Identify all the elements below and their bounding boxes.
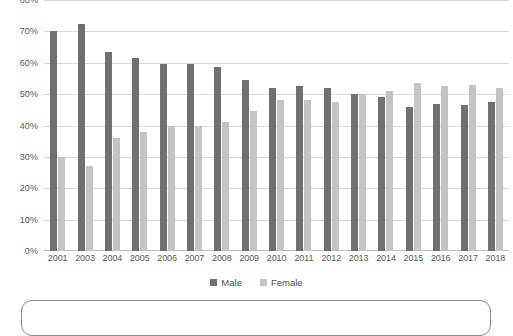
bar-male-2009 — [242, 80, 249, 251]
bar-female-2007 — [195, 126, 202, 252]
bar-group — [181, 0, 208, 251]
bar-group — [482, 0, 509, 251]
bar-male-2004 — [105, 52, 112, 251]
bar-group — [400, 0, 427, 251]
x-axis: 2001200320042005200620072008200920102011… — [44, 253, 509, 268]
legend-label: Female — [271, 277, 303, 288]
bar-group — [345, 0, 372, 251]
bar-female-2013 — [359, 94, 366, 251]
bar-female-2008 — [222, 122, 229, 251]
bar-group — [236, 0, 263, 251]
x-axis-tick-label: 2008 — [208, 253, 235, 268]
x-axis-tick-label: 2014 — [372, 253, 399, 268]
legend-label: Male — [221, 277, 242, 288]
bar-female-2011 — [304, 100, 311, 251]
y-axis-tick-label: 40% — [20, 121, 38, 131]
y-axis-tick-label: 60% — [20, 58, 38, 68]
bar-male-2012 — [324, 88, 331, 251]
chart-legend: MaleFemale — [0, 274, 513, 290]
bar-female-2010 — [277, 100, 284, 251]
bar-male-2014 — [378, 97, 385, 251]
bar-group — [290, 0, 317, 251]
bar-male-2007 — [187, 64, 194, 251]
x-axis-tick-label: 2017 — [454, 253, 481, 268]
x-axis-tick-label: 2001 — [44, 253, 71, 268]
y-axis-tick-label: 0% — [25, 246, 38, 256]
bar-female-2012 — [332, 102, 339, 251]
bar-group — [71, 0, 98, 251]
bar-male-2017 — [461, 105, 468, 251]
bar-male-2018 — [488, 102, 495, 251]
x-axis-tick-label: 2003 — [71, 253, 98, 268]
y-axis: 0%10%20%30%40%50%60%70%80% — [0, 0, 44, 268]
bar-male-2013 — [351, 94, 358, 251]
x-axis-tick-label: 2015 — [400, 253, 427, 268]
bar-male-2010 — [269, 88, 276, 251]
bar-group — [208, 0, 235, 251]
y-axis-tick-label: 80% — [20, 0, 38, 5]
x-axis-tick-label: 2004 — [99, 253, 126, 268]
bar-male-2003 — [78, 24, 85, 251]
bar-male-2016 — [433, 104, 440, 251]
bar-male-2015 — [406, 107, 413, 251]
bar-female-2003 — [86, 166, 93, 251]
bar-group — [44, 0, 71, 251]
bar-female-2017 — [469, 85, 476, 251]
x-axis-tick-label: 2018 — [482, 253, 509, 268]
x-axis-tick-label: 2006 — [153, 253, 180, 268]
bar-female-2016 — [441, 86, 448, 251]
bar-group — [99, 0, 126, 251]
bar-group — [126, 0, 153, 251]
legend-swatch-icon — [210, 279, 217, 286]
legend-swatch-icon — [260, 279, 267, 286]
y-axis-tick-label: 20% — [20, 183, 38, 193]
x-axis-tick-label: 2013 — [345, 253, 372, 268]
y-axis-tick-label: 70% — [20, 26, 38, 36]
plot-area: 0%10%20%30%40%50%60%70%80% 2001200320042… — [0, 0, 513, 268]
bar-group — [427, 0, 454, 251]
x-axis-tick-label: 2005 — [126, 253, 153, 268]
bar-male-2001 — [50, 31, 57, 251]
legend-item-male[interactable]: Male — [210, 277, 242, 288]
y-axis-tick-label: 10% — [20, 215, 38, 225]
bar-female-2004 — [113, 138, 120, 251]
bars-layer — [44, 0, 509, 251]
bar-male-2005 — [132, 58, 139, 251]
bar-group — [263, 0, 290, 251]
x-axis-tick-label: 2012 — [318, 253, 345, 268]
x-axis-tick-label: 2007 — [181, 253, 208, 268]
bar-group — [318, 0, 345, 251]
x-axis-tick-label: 2011 — [290, 253, 317, 268]
bar-male-2006 — [160, 64, 167, 251]
x-axis-tick-label: 2009 — [236, 253, 263, 268]
bar-group — [372, 0, 399, 251]
bar-group — [454, 0, 481, 251]
bar-female-2018 — [496, 88, 503, 251]
bottom-panel — [21, 300, 491, 336]
bar-female-2001 — [58, 157, 65, 251]
bar-female-2005 — [140, 132, 147, 251]
x-axis-tick-label: 2016 — [427, 253, 454, 268]
legend-item-female[interactable]: Female — [260, 277, 303, 288]
bar-group — [153, 0, 180, 251]
bar-female-2014 — [386, 91, 393, 251]
bar-female-2009 — [250, 111, 257, 251]
x-axis-tick-label: 2010 — [263, 253, 290, 268]
bar-male-2008 — [214, 67, 221, 251]
y-axis-tick-label: 50% — [20, 89, 38, 99]
bar-female-2015 — [414, 83, 421, 251]
bar-male-2011 — [296, 86, 303, 251]
y-axis-tick-label: 30% — [20, 152, 38, 162]
bar-female-2006 — [168, 126, 175, 252]
